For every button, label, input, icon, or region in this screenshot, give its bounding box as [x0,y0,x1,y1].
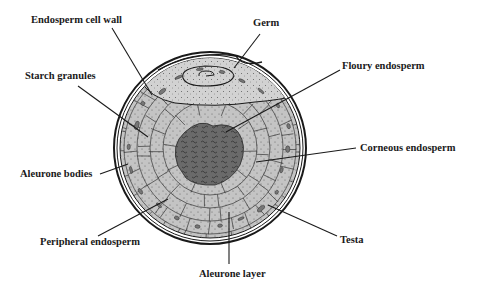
label-germ: Germ [253,17,279,29]
aleurone-body [286,146,290,153]
label-endosperm-cell-wall: Endosperm cell wall [31,14,122,26]
label-testa: Testa [340,234,364,246]
aleurone-body [127,144,130,150]
label-corneous-endosperm: Corneous endosperm [360,142,455,154]
leader-endosperm-cell-wall [112,28,152,95]
label-peripheral-endosperm: Peripheral endosperm [40,236,140,248]
label-starch-granules: Starch granules [25,70,96,82]
leader-testa [268,205,337,236]
label-aleurone-layer: Aleurone layer [199,268,266,280]
label-floury-endosperm: Floury endosperm [342,60,425,72]
label-aleurone-bodies: Aleurone bodies [20,168,92,180]
aleurone-body [217,224,222,228]
